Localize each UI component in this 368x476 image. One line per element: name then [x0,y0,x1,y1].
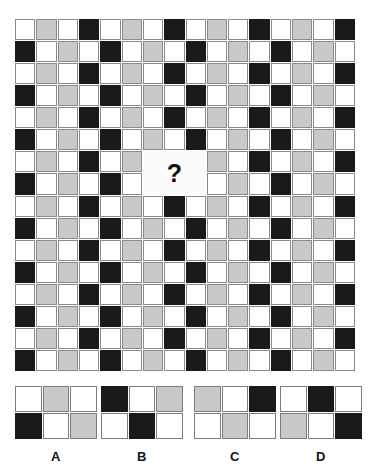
matrix-cell [313,85,333,106]
matrix-cell [164,218,184,239]
matrix-cell [58,218,78,239]
matrix-cell [313,107,333,128]
matrix-cell [79,262,99,283]
matrix-cell [100,262,120,283]
matrix-cell [228,63,248,84]
matrix-cell [164,41,184,62]
missing-piece-window[interactable]: ? [143,151,207,195]
matrix-cell [292,218,312,239]
matrix-cell [36,151,56,172]
matrix-cell [122,85,142,106]
matrix-cell [186,218,206,239]
matrix-cell [313,262,333,283]
matrix-cell [228,41,248,62]
matrix-cell [228,107,248,128]
matrix-cell [271,85,291,106]
matrix-cell [186,41,206,62]
answer-option-b[interactable]: B [101,386,183,464]
answer-option-a[interactable]: A [15,386,97,464]
answer-option-d[interactable]: D [280,386,362,464]
matrix-cell [228,173,248,194]
matrix-cell [58,196,78,217]
answer-option-c-grid[interactable] [194,386,276,439]
matrix-cell [292,63,312,84]
matrix-cell [143,196,163,217]
matrix-cell [36,306,56,327]
matrix-cell [207,218,227,239]
matrix-cell [143,218,163,239]
matrix-cell [122,218,142,239]
answer-option-c[interactable]: C [194,386,276,464]
matrix-cell [100,328,120,349]
matrix-cell [143,306,163,327]
matrix-cell [122,151,142,172]
option-cell [43,386,70,412]
matrix-cell [122,19,142,40]
matrix-cell [36,284,56,305]
matrix-cell [15,306,35,327]
matrix-cell [122,173,142,194]
matrix-cell [207,129,227,150]
matrix-cell [186,19,206,40]
matrix-cell [15,240,35,261]
matrix-cell [122,350,142,371]
matrix-cell [186,196,206,217]
matrix-cell [335,151,355,172]
option-cell [222,413,249,439]
matrix-cell [207,173,227,194]
matrix-cell [228,284,248,305]
answer-option-d-grid[interactable] [280,386,362,439]
matrix-cell [207,284,227,305]
matrix-cell [58,328,78,349]
matrix-cell [15,262,35,283]
answer-option-a-grid[interactable] [15,386,97,439]
matrix-cell [335,284,355,305]
matrix-cell [271,129,291,150]
matrix-cell [249,129,269,150]
answer-option-b-grid[interactable] [101,386,183,439]
matrix-cell [335,41,355,62]
matrix-cell [164,328,184,349]
matrix-cell [15,173,35,194]
option-cell [194,413,221,439]
matrix-cell [15,85,35,106]
matrix-cell [186,63,206,84]
matrix-cell [164,284,184,305]
matrix-cell [313,19,333,40]
matrix-cell [249,63,269,84]
matrix-cell [249,262,269,283]
matrix-cell [164,350,184,371]
matrix-cell [15,284,35,305]
matrix-cell [335,129,355,150]
matrix-cell [292,306,312,327]
matrix-cell [36,41,56,62]
matrix-cell [271,196,291,217]
matrix-cell [122,129,142,150]
matrix-cell [207,151,227,172]
matrix-cell [335,85,355,106]
matrix-cell [79,306,99,327]
matrix-cell [143,107,163,128]
matrix-cell [79,129,99,150]
matrix-cell [58,41,78,62]
matrix-cell [186,306,206,327]
matrix-cell [292,240,312,261]
matrix-cell [36,19,56,40]
matrix-cell [271,262,291,283]
matrix-cell [164,262,184,283]
matrix-cell [122,262,142,283]
matrix-cell [207,85,227,106]
matrix-cell [186,350,206,371]
matrix-cell [164,19,184,40]
option-cell [335,386,362,412]
matrix-cell [164,107,184,128]
matrix-cell [228,151,248,172]
matrix-cell [249,151,269,172]
matrix-cell [36,129,56,150]
matrix-cell [335,107,355,128]
matrix-cell [249,240,269,261]
option-cell [156,413,183,439]
matrix-cell [58,63,78,84]
matrix-cell [143,262,163,283]
matrix-cell [36,218,56,239]
